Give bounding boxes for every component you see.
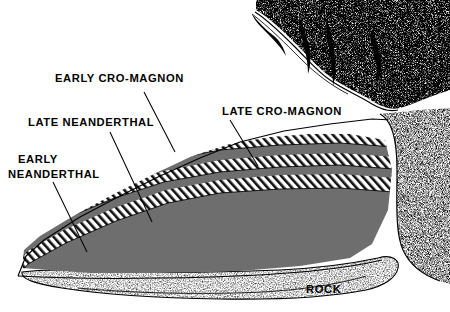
label-late-cro-magnon: LATE CRO-MAGNON — [222, 105, 342, 117]
label-rock: ROCK — [306, 283, 341, 295]
label-early-neanderthal-line1: EARLY — [18, 153, 58, 165]
label-late-neanderthal: LATE NEANDERTHAL — [28, 116, 154, 128]
label-early-cro-magnon: EARLY CRO-MAGNON — [55, 72, 184, 84]
label-early-neanderthal-line2: NEANDERTHAL — [8, 168, 100, 180]
cross-section-illustration: EARLY CRO-MAGNON LATE NEANDERTHAL EARLY … — [0, 0, 450, 312]
